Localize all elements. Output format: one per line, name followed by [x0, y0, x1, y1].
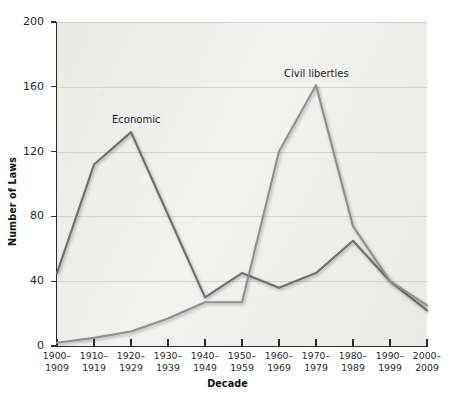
series-lines: [0, 0, 455, 404]
y-axis-title: Number of Laws: [7, 152, 18, 252]
x-axis-title: Decade: [0, 378, 455, 389]
chart-figure: 04080120160200 1900– 19091910– 19191920–…: [0, 0, 455, 404]
series-label-economic: Economic: [112, 114, 160, 125]
series-line-economic: [57, 132, 427, 310]
series-label-civil-liberties: Civil liberties: [284, 68, 349, 79]
